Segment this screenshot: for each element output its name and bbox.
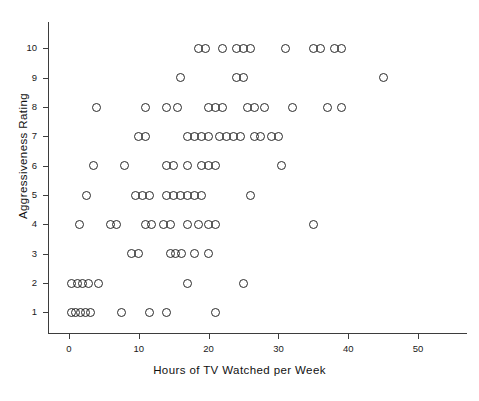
y-tick-label: 1: [15, 306, 37, 317]
data-point: [316, 44, 325, 53]
y-axis-title: Aggressiveness Rating: [17, 41, 29, 271]
data-point: [211, 161, 220, 170]
data-point: [162, 103, 171, 112]
x-axis-title: Hours of TV Watched per Week: [0, 364, 479, 376]
data-point: [197, 191, 206, 200]
data-point: [204, 132, 213, 141]
x-tick-label: 0: [54, 343, 84, 354]
data-point: [218, 44, 227, 53]
x-tick-label: 20: [194, 343, 224, 354]
x-tick-mark: [278, 334, 279, 339]
data-point: [92, 103, 101, 112]
plot-data-area: [48, 22, 467, 334]
data-point: [82, 191, 91, 200]
x-tick-label: 50: [403, 343, 433, 354]
data-point: [94, 279, 103, 288]
data-point: [141, 132, 150, 141]
x-tick-mark: [348, 334, 349, 339]
data-point: [246, 44, 255, 53]
data-point: [337, 44, 346, 53]
data-point: [256, 132, 265, 141]
scatter-plot-figure: 12345678910 01020304050 Hours of TV Watc…: [0, 0, 479, 401]
data-point: [288, 103, 297, 112]
x-tick-mark: [209, 334, 210, 339]
data-point: [169, 161, 178, 170]
data-point: [183, 279, 192, 288]
x-tick-label: 10: [124, 343, 154, 354]
data-point: [194, 220, 203, 229]
data-point: [239, 73, 248, 82]
data-point: [246, 191, 255, 200]
data-point: [211, 220, 220, 229]
x-tick-mark: [139, 334, 140, 339]
data-point: [166, 220, 175, 229]
data-point: [201, 44, 210, 53]
data-point: [309, 220, 318, 229]
data-point: [89, 161, 98, 170]
data-point: [323, 103, 332, 112]
x-tick-mark: [418, 334, 419, 339]
data-point: [120, 161, 129, 170]
data-point: [117, 308, 126, 317]
data-point: [84, 279, 93, 288]
data-point: [236, 132, 245, 141]
data-point: [177, 249, 186, 258]
data-point: [277, 161, 286, 170]
data-point: [211, 308, 220, 317]
data-point: [162, 308, 171, 317]
data-point: [218, 103, 227, 112]
y-tick-label: 2: [15, 277, 37, 288]
data-point: [86, 308, 95, 317]
data-point: [379, 73, 388, 82]
x-tick-mark: [69, 334, 70, 339]
data-point: [260, 103, 269, 112]
data-point: [147, 220, 156, 229]
data-point: [173, 103, 182, 112]
data-point: [250, 103, 259, 112]
data-point: [337, 103, 346, 112]
data-point: [190, 249, 199, 258]
data-point: [183, 161, 192, 170]
data-point: [176, 73, 185, 82]
data-point: [204, 249, 213, 258]
x-tick-label: 30: [263, 343, 293, 354]
data-point: [112, 220, 121, 229]
x-tick-label: 40: [333, 343, 363, 354]
data-point: [239, 279, 248, 288]
data-point: [281, 44, 290, 53]
data-point: [145, 191, 154, 200]
data-point: [274, 132, 283, 141]
data-point: [141, 103, 150, 112]
data-point: [145, 308, 154, 317]
data-point: [183, 220, 192, 229]
data-point: [75, 220, 84, 229]
data-point: [134, 249, 143, 258]
